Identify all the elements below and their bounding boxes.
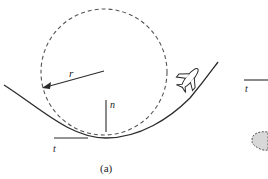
radius-arrowhead-icon — [42, 82, 51, 89]
figure-caption: (a) — [100, 162, 113, 175]
partial-tangent-label: t — [245, 83, 248, 94]
diagram-figure: r n t t (a) — [0, 0, 268, 179]
tangent-label: t — [53, 143, 56, 154]
curvature-circle — [41, 9, 167, 135]
radius-arrow-line — [46, 71, 104, 87]
radius-label: r — [69, 67, 74, 79]
normal-label: n — [110, 99, 115, 110]
airplane-icon — [173, 62, 206, 95]
partial-shaded-blob — [252, 132, 268, 150]
